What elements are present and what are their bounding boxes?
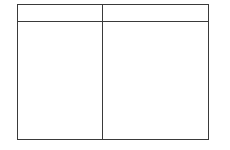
header-cell-left	[18, 5, 102, 21]
body-cell-right	[103, 22, 208, 139]
body-cell-left	[18, 22, 102, 139]
two-column-table	[17, 4, 209, 140]
header-cell-right	[103, 5, 208, 21]
